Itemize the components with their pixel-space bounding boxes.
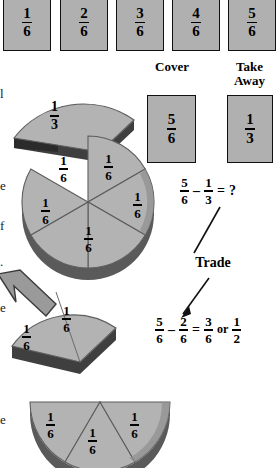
equation-top-right-fraction: 1 3	[204, 176, 213, 206]
take-away-label: Take Away	[224, 60, 275, 87]
traded-pair-manipulative[interactable]: 1 6 1 6	[8, 290, 134, 376]
fraction-5-6: 5 6	[247, 6, 257, 40]
fraction-card[interactable]: 4 6	[172, 0, 220, 51]
cover-label: Cover	[146, 60, 198, 74]
half-fraction-1-6: 1 6	[46, 410, 55, 440]
circle-fraction-1-6: 1 6	[133, 190, 142, 220]
take-away-label-line2: Away	[234, 73, 265, 88]
take-away-card[interactable]: 1 3	[227, 95, 273, 163]
equation-bottom: 5 6 – 2 6 = 3 6 or 1 2	[155, 315, 241, 345]
trade-label: Trade	[183, 256, 243, 271]
circle-fraction-1-6: 1 6	[41, 196, 50, 226]
circle-fraction-1-6: 1 6	[84, 224, 93, 254]
fraction-card[interactable]: 2 6	[60, 0, 108, 51]
circle-fraction-1-6: 1 6	[59, 154, 68, 184]
half-fraction-1-6: 1 6	[130, 410, 139, 440]
margin-text-line2: e	[0, 178, 6, 194]
equation-bottom-right-fraction: 2 6	[179, 315, 188, 345]
margin-text-line6: e	[0, 412, 6, 428]
wedge-fraction-1-3: 1 3	[50, 100, 59, 132]
fraction-1-6: 1 6	[22, 6, 32, 40]
half-fraction-1-6: 1 6	[88, 426, 97, 456]
margin-text-line1: l	[0, 86, 4, 102]
circle-fraction-1-6: 1 6	[104, 152, 113, 182]
fraction-card[interactable]: 5 6	[228, 0, 276, 51]
equals-sign: =	[192, 322, 200, 338]
unknown-result: ?	[229, 183, 236, 199]
equation-bottom-alt-result-fraction: 1 2	[232, 315, 241, 345]
fraction-3-6: 3 6	[135, 6, 145, 40]
minus-operator: –	[193, 183, 200, 199]
fraction-card[interactable]: 1 6	[3, 0, 51, 51]
fraction-2-6: 2 6	[79, 6, 89, 40]
traded-fraction-1-6: 1 6	[22, 322, 31, 352]
fraction-1-3: 1 3	[245, 112, 255, 146]
traded-fraction-1-6: 1 6	[62, 304, 71, 334]
fraction-4-6: 4 6	[191, 6, 201, 40]
equation-top-left-fraction: 5 6	[180, 176, 189, 206]
minus-operator: –	[168, 322, 175, 338]
equation-bottom-result-fraction: 3 6	[204, 315, 213, 345]
equation-bottom-left-fraction: 5 6	[155, 315, 164, 345]
trade-arrow-upper	[186, 205, 226, 257]
fraction-5-6: 5 6	[167, 112, 177, 146]
equals-sign: =	[217, 183, 225, 199]
margin-text-line3: f	[0, 218, 4, 234]
equation-top: 5 6 – 1 3 = ?	[180, 176, 236, 206]
half-result-manipulative[interactable]: 1 6 1 6 1 6	[22, 388, 178, 468]
sixths-circle-manipulative[interactable]: 1 6 1 6 1 6 1 6 1 6	[14, 132, 164, 270]
or-conjunction: or	[217, 322, 228, 337]
fraction-card[interactable]: 3 6	[116, 0, 164, 51]
